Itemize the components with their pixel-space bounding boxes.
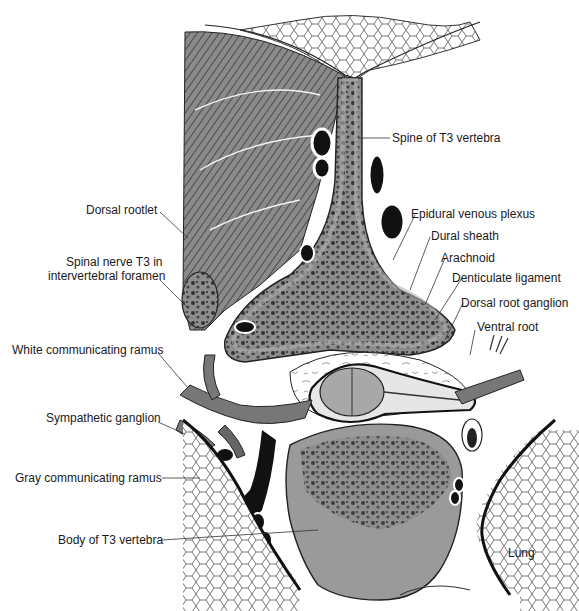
label-epidural-venous-plexus: Epidural venous plexus [411, 207, 535, 221]
label-body-t3-vertebra: Body of T3 vertebra [58, 533, 163, 547]
label-denticulate-ligament: Denticulate ligament [452, 271, 561, 285]
label-arachnoid: Arachnoid [441, 251, 495, 265]
label-ventral-root: Ventral root [477, 320, 538, 334]
label-dorsal-rootlet: Dorsal rootlet [86, 203, 157, 217]
anatomy-figure: Spine of T3 vertebra Dorsal rootlet Epid… [0, 0, 579, 611]
label-sympathetic-ganglion: Sympathetic ganglion [46, 411, 161, 425]
label-dorsal-root-ganglion: Dorsal root ganglion [461, 296, 568, 310]
label-gray-communicating-ramus: Gray communicating ramus [15, 471, 162, 485]
label-spine-t3: Spine of T3 vertebra [392, 131, 501, 145]
label-spinal-nerve-line1: Spinal nerve T3 in [66, 255, 163, 269]
label-dural-sheath: Dural sheath [431, 229, 499, 243]
label-white-communicating-ramus: White communicating ramus [12, 343, 163, 357]
label-spinal-nerve-line2: intervertebral foramen [48, 269, 165, 283]
label-lung: Lung [508, 546, 535, 560]
